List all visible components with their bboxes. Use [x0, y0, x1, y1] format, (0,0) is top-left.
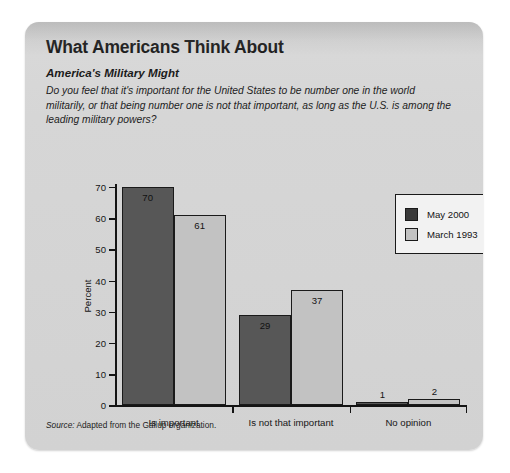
y-tick-label: 30: [95, 306, 106, 317]
y-tick-label: 10: [95, 369, 106, 380]
y-axis-line: [115, 184, 117, 407]
bar-value-label: 61: [194, 220, 205, 231]
y-tick-label: 40: [95, 275, 106, 286]
bar: 2: [408, 399, 460, 405]
y-tick-mark: [109, 343, 115, 344]
bar: 61: [174, 215, 226, 405]
y-axis-title: Percent: [82, 279, 93, 312]
legend-label: May 2000: [427, 209, 469, 220]
y-tick-mark: [109, 312, 115, 313]
x-axis-category-label: Is not that important: [249, 417, 334, 428]
page-title: What Americans Think About: [46, 38, 465, 57]
y-tick-mark: [109, 218, 115, 219]
x-axis-line: [115, 405, 467, 407]
bar-value-label: 29: [260, 320, 271, 331]
legend-label: March 1993: [427, 229, 478, 240]
x-tick-mark: [466, 407, 467, 413]
bar-value-label: 37: [312, 295, 323, 306]
bar-value-label: 70: [142, 192, 153, 203]
bar: 1: [356, 402, 408, 405]
y-tick-mark: [109, 187, 115, 188]
bar-value-label: 1: [380, 389, 385, 400]
y-tick-mark: [109, 374, 115, 375]
bar-value-label: 2: [432, 386, 437, 397]
bar-chart: Percent 010203040506070 Is importantIs n…: [46, 154, 470, 412]
y-tick-label: 70: [95, 182, 106, 193]
bar: 70: [122, 187, 174, 405]
y-tick-label: 0: [101, 400, 106, 411]
y-tick-label: 60: [95, 213, 106, 224]
bar: 29: [239, 315, 291, 405]
x-tick-mark: [232, 407, 233, 413]
legend-swatch-icon: [405, 228, 418, 241]
x-tick-mark: [350, 407, 351, 413]
source-text: Adapted from the Gallup organization.: [75, 420, 217, 430]
y-tick-mark: [109, 281, 115, 282]
y-tick-label: 50: [95, 244, 106, 255]
legend-item: May 2000: [405, 204, 479, 224]
legend-swatch-icon: [405, 208, 418, 221]
y-tick-mark: [109, 405, 115, 406]
survey-question: Do you feel that it's important for the …: [46, 84, 452, 128]
chart-subtitle: America's Military Might: [46, 66, 465, 79]
y-tick-mark: [109, 249, 115, 250]
legend-item: March 1993: [405, 224, 479, 244]
chart-legend: May 2000 March 1993: [395, 194, 483, 254]
source-note: Source: Adapted from the Gallup organiza…: [46, 420, 216, 430]
y-tick-label: 20: [95, 338, 106, 349]
bar: 37: [291, 290, 343, 405]
x-axis-category-label: No opinion: [385, 417, 431, 428]
info-card: What Americans Think About America's Mil…: [25, 22, 483, 450]
source-label: Source:: [46, 420, 75, 430]
